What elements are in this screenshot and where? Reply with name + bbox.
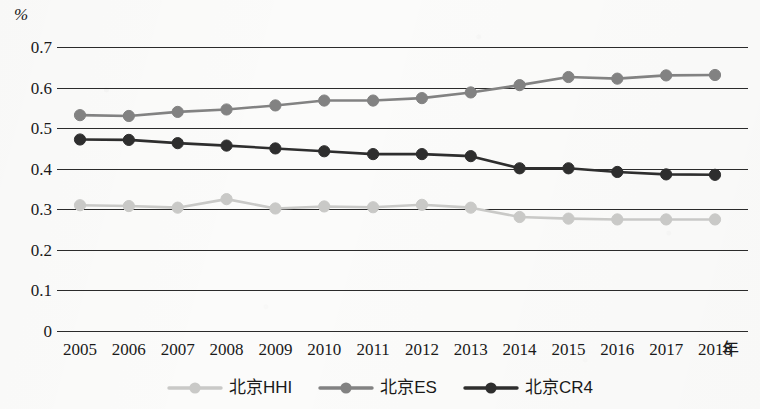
legend-item: 北京ES — [318, 379, 437, 396]
legend-label: 北京HHI — [229, 379, 292, 396]
data-point-marker — [221, 140, 232, 151]
x-axis-tick-label: 2011 — [356, 341, 389, 358]
data-point-marker — [661, 214, 672, 225]
x-axis-tick-label: 2007 — [161, 341, 195, 358]
x-axis-tick-label: 2005 — [63, 341, 97, 358]
data-point-marker — [367, 202, 378, 213]
data-point-marker — [661, 70, 672, 81]
legend-label: 北京ES — [380, 379, 437, 396]
data-point-marker — [123, 134, 134, 145]
data-point-marker — [514, 211, 525, 222]
data-point-marker — [172, 138, 183, 149]
data-point-marker — [709, 69, 720, 80]
data-point-marker — [74, 110, 85, 121]
series-1 — [74, 194, 720, 225]
data-point-marker — [709, 214, 720, 225]
data-point-marker — [270, 143, 281, 154]
data-point-marker — [123, 200, 134, 211]
legend-label: 北京CR4 — [525, 379, 593, 396]
data-point-marker — [172, 202, 183, 213]
chart-container: % 00.10.20.30.40.50.60.7 200520062007200… — [0, 0, 760, 409]
data-point-marker — [270, 203, 281, 214]
x-axis-tick-label: 2006 — [112, 341, 146, 358]
data-point-marker — [416, 199, 427, 210]
data-point-marker — [74, 134, 85, 145]
data-point-marker — [270, 100, 281, 111]
data-point-marker — [661, 169, 672, 180]
data-point-marker — [563, 163, 574, 174]
data-point-marker — [514, 163, 525, 174]
data-point-marker — [709, 169, 720, 180]
x-axis-tick-label: 2013 — [454, 341, 488, 358]
series-2 — [74, 69, 720, 121]
data-point-marker — [367, 149, 378, 160]
data-point-marker — [612, 214, 623, 225]
data-point-marker — [563, 213, 574, 224]
data-point-marker — [319, 146, 330, 157]
data-point-marker — [465, 151, 476, 162]
data-point-marker — [123, 110, 134, 121]
legend-marker-icon — [463, 380, 519, 396]
x-axis-tick-label: 2009 — [258, 341, 292, 358]
data-point-marker — [612, 166, 623, 177]
legend-item: 北京CR4 — [463, 379, 593, 396]
chart-legend: 北京HHI北京ES北京CR4 — [0, 379, 760, 396]
x-axis-tick-label: 2010 — [307, 341, 341, 358]
legend-item: 北京HHI — [167, 379, 292, 396]
data-point-marker — [221, 194, 232, 205]
data-point-marker — [367, 95, 378, 106]
x-axis-tick-label: 2008 — [210, 341, 244, 358]
x-axis-tick-label: 2016 — [600, 341, 634, 358]
legend-marker-icon — [318, 380, 374, 396]
data-point-marker — [563, 71, 574, 82]
legend-marker-icon — [167, 380, 223, 396]
x-axis-tick-label: 2017 — [649, 341, 683, 358]
series-3 — [74, 134, 720, 180]
data-point-marker — [416, 93, 427, 104]
data-point-marker — [612, 73, 623, 84]
data-point-marker — [465, 202, 476, 213]
data-point-marker — [416, 149, 427, 160]
x-axis-tick-label: 2012 — [405, 341, 439, 358]
data-point-marker — [172, 106, 183, 117]
data-point-marker — [319, 95, 330, 106]
x-axis-tick-label: 2014 — [503, 341, 537, 358]
data-point-marker — [514, 80, 525, 91]
data-point-marker — [319, 201, 330, 212]
x-axis-tick-label: 2015 — [551, 341, 585, 358]
data-point-marker — [465, 87, 476, 98]
data-point-marker — [221, 104, 232, 115]
x-axis-unit-label: 年 — [722, 341, 739, 358]
data-point-marker — [74, 200, 85, 211]
